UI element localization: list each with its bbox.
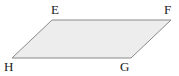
geometry-figure: E F G H — [0, 0, 179, 76]
parallelogram-shape — [12, 20, 171, 58]
vertex-label-h: H — [4, 60, 13, 73]
vertex-label-f: F — [164, 3, 171, 16]
parallelogram-svg — [0, 0, 179, 76]
vertex-label-g: G — [120, 60, 129, 73]
vertex-label-e: E — [51, 3, 59, 16]
